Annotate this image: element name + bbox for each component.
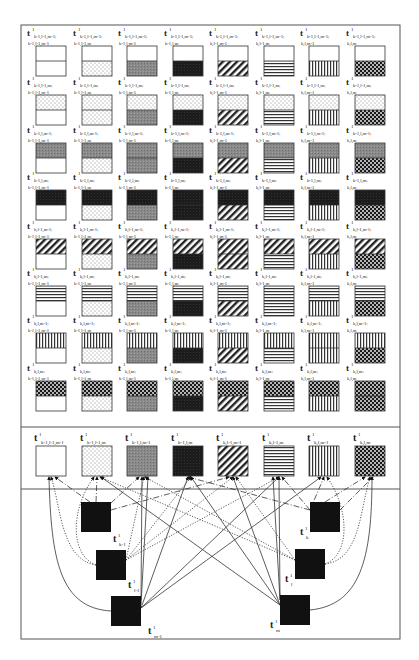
- label-t: t: [209, 77, 212, 87]
- grid-cell: t1k-1,l-1,m;k,l-1,m: [255, 76, 294, 125]
- label-sup: 1: [214, 76, 217, 81]
- cell-bottom-dots: [82, 158, 112, 173]
- grid-cell: t1k,l-1,m-1;k,l-1,m-1: [209, 220, 248, 269]
- label-sub-a: k-1,l,m;: [216, 178, 231, 184]
- cell-top-dots: [264, 95, 294, 110]
- label-t: t: [164, 172, 167, 182]
- label-sup: 1: [214, 124, 217, 129]
- cell-top-white: [355, 46, 385, 61]
- label-sup: 1: [123, 76, 126, 81]
- cell-bottom-diagonal: [218, 110, 248, 125]
- label-sub-a: k-1,l-1,m;: [307, 83, 325, 89]
- cell-top-diagonal: [355, 239, 385, 254]
- cell-bottom-black: [173, 301, 203, 316]
- label-sub-a: k-1,l,m-1;: [125, 131, 143, 137]
- edge-m1: [49, 477, 111, 611]
- label-sup: 1: [260, 171, 263, 176]
- cell-label: t1k,l-1,m-1;k-1,l,m: [164, 220, 189, 240]
- label-sub: k-1,l-1,m-1: [41, 440, 64, 446]
- target-box-checker: [355, 446, 385, 476]
- cell-label: t1k,l-1,m;k-1,l-1,m: [73, 267, 95, 287]
- cell-label: t1k,l,m;k-1,l-1,m: [73, 362, 92, 382]
- cell-top-white: [82, 46, 112, 61]
- label-sup: 1: [351, 124, 354, 129]
- label-t: t: [164, 363, 167, 373]
- cell-top-horizontal: [173, 286, 203, 301]
- cell-label: t1k-1,l-1,m-1;k,l,m: [346, 27, 375, 47]
- source-box: [81, 502, 111, 532]
- target-box-black: [173, 446, 203, 476]
- label-sup: 1: [169, 267, 172, 272]
- cell-bottom-gray: [127, 61, 157, 76]
- cell-label: t1k-1,l,m-1;k-1,l-1,m-1: [27, 124, 52, 144]
- label-sub-a: k-1,l-1,m-1;: [262, 34, 284, 40]
- label-t: t: [255, 172, 258, 182]
- cell-label: t1k-1,l-1,m-1;k,l,m-1: [300, 27, 329, 47]
- grid-cell: t1k,l-1,m;k-1,l,m: [164, 267, 203, 316]
- label-sub-a: k-1,l-1,m;: [262, 83, 280, 89]
- cell-bottom-diagonal: [218, 254, 248, 269]
- label-t: t: [300, 268, 303, 278]
- label-sup: 1: [305, 27, 308, 32]
- cell-bottom-white: [36, 158, 66, 173]
- label-sup: 1: [169, 314, 172, 319]
- label-sub: k,l-1,m: [269, 440, 284, 446]
- grid-cell: t1k-1,l,m;k,l,m: [346, 171, 385, 220]
- cell-bottom-gray: [127, 301, 157, 316]
- label-sub: k: [306, 535, 309, 540]
- label-sup: 1: [275, 619, 278, 624]
- label-sup: 1: [351, 27, 354, 32]
- cell-bottom-vertical: [309, 396, 339, 411]
- cell-top-black: [355, 190, 385, 205]
- cell-bottom-gray: [127, 158, 157, 173]
- label-sup: 1: [176, 432, 179, 437]
- label-t: t: [73, 172, 76, 182]
- label-sub-a: k,l,m-1;: [171, 321, 186, 327]
- label-sub-a: k-1,l,m-1;: [171, 131, 189, 137]
- label-t: t: [300, 125, 303, 135]
- target-node: t1k-1,l-1,m: [80, 432, 112, 476]
- target-node: t1k,l,m: [353, 432, 385, 476]
- target-node: t1k-1,l,m-1: [125, 432, 157, 476]
- cell-top-horizontal: [264, 286, 294, 301]
- label-sub-a: k-1,l,m;: [125, 178, 140, 184]
- label-sup: 1: [78, 27, 81, 32]
- label-sup: 1: [351, 220, 354, 225]
- grid-cell: t1k-1,l-1,m;k,l-1,m-1: [209, 76, 248, 125]
- grid-cell: t1k-1,l,m;k,l-1,m: [255, 171, 294, 220]
- cell-bottom-white: [36, 254, 66, 269]
- label-t: t: [346, 28, 349, 38]
- label-sup: 1: [123, 124, 126, 129]
- cell-bottom-white: [36, 110, 66, 125]
- label-t: t: [73, 77, 76, 87]
- label-t: t: [209, 268, 212, 278]
- cell-bottom-checker: [355, 61, 385, 76]
- grid-cell: t1k-1,l-1,m-1;k,l,m-1: [300, 27, 339, 76]
- cell-bottom-diagonal: [218, 158, 248, 173]
- label-sub-a: k-1,l-1,m;: [216, 83, 234, 89]
- grid-cell: t1k-1,l,m;k-1,l-1,m-1: [27, 171, 66, 220]
- label-sup: 1: [32, 362, 35, 367]
- label-sub-a: k-1,l-1,m-1;: [80, 34, 102, 40]
- grid-cell: t1k,l,m-1;k-1,l-1,m: [73, 314, 112, 363]
- label-sup: 1: [123, 362, 126, 367]
- label-sup: 1: [169, 171, 172, 176]
- cell-label: t1k-1,l-1,m;k-1,l,m: [164, 76, 189, 96]
- label-t: t: [346, 315, 349, 325]
- target-box-horizontal: [264, 446, 294, 476]
- label-sub-a: k,l,m;: [171, 369, 182, 375]
- grid-cell: t1k,l,m;k,l-1,m: [255, 362, 294, 411]
- cell-top-vertical: [264, 333, 294, 348]
- cell-label: t1k,l,m-1;k,l,m: [346, 314, 368, 334]
- cell-bottom-white: [36, 396, 66, 411]
- label-sub-a: k-1,l,m;: [353, 178, 368, 184]
- cell-bottom-horizontal: [264, 158, 294, 173]
- label-t: t: [164, 28, 167, 38]
- grid-cell: t1k-1,l-1,m-1;k,l-1,m-1: [209, 27, 248, 76]
- cell-top-gray: [264, 143, 294, 158]
- cell-label: t1k,l,m;k,l,m-1: [300, 362, 318, 382]
- label-sup: 1: [305, 267, 308, 272]
- label-sup: 1: [260, 76, 263, 81]
- cell-label: t1k-1,l-1,m-1;k-1,l-1,m-1: [27, 27, 56, 47]
- cell-bottom-diagonal: [218, 205, 248, 220]
